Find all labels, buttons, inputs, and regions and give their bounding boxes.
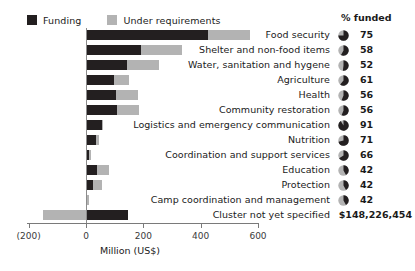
category-label: Health xyxy=(120,89,330,100)
bar-funding xyxy=(86,180,93,190)
percent-funded-pie-icon xyxy=(338,195,350,206)
x-axis-tick-label: 0 xyxy=(63,231,109,241)
percent-funded-pie-icon xyxy=(338,180,350,191)
category-label: Cluster not yet specified xyxy=(120,209,330,220)
percent-funded-pie-icon xyxy=(338,135,350,146)
category-label: Shelter and non-food items xyxy=(120,44,330,55)
category-label: Logistics and emergency communication xyxy=(120,119,330,130)
bar-under-requirements xyxy=(102,120,103,130)
percent-funded-value: 61 xyxy=(360,74,400,85)
bar-funding xyxy=(86,75,114,85)
funding-bar-chart: Funding Under requirements % funded Food… xyxy=(0,0,415,271)
percent-funded-value: 56 xyxy=(360,104,400,115)
percent-funded-value: 56 xyxy=(360,89,400,100)
percent-funded-value: 91 xyxy=(360,119,400,130)
category-label: Education xyxy=(120,164,330,175)
percent-funded-pie-icon xyxy=(338,150,350,161)
bar-under-requirements xyxy=(96,135,99,145)
category-label: Agriculture xyxy=(120,74,330,85)
total-amount-value: $148,226,454 xyxy=(300,209,412,220)
bar-under-requirements xyxy=(97,165,109,175)
category-label: Camp coordination and management xyxy=(120,194,330,205)
chart-row: Nutrition71 xyxy=(0,133,415,148)
percent-funded-pie-icon xyxy=(338,120,350,131)
chart-row: Logistics and emergency communication91 xyxy=(0,118,415,133)
percent-funded-value: 42 xyxy=(360,179,400,190)
percent-funded-header-label: % funded xyxy=(329,12,392,23)
legend-item-funding: Funding xyxy=(27,15,81,26)
percent-funded-value: 75 xyxy=(360,29,400,40)
chart-row: Agriculture61 xyxy=(0,73,415,88)
percent-funded-pie-icon xyxy=(338,165,350,176)
plot-area: Food security75Shelter and non-food item… xyxy=(0,28,415,223)
chart-row: Camp coordination and management42 xyxy=(0,193,415,208)
x-axis-title: Million (US$) xyxy=(50,245,210,256)
percent-funded-pie-icon xyxy=(338,60,350,71)
percent-funded-pie-icon xyxy=(338,105,350,116)
category-label: Nutrition xyxy=(120,134,330,145)
chart-row: Cluster not yet specified$148,226,454 xyxy=(0,208,415,223)
chart-row: Water, sanitation and hygene52 xyxy=(0,58,415,73)
bar-funding xyxy=(86,90,116,100)
chart-row: Community restoration56 xyxy=(0,103,415,118)
x-axis-tick-label: (200) xyxy=(6,231,52,241)
legend-label-funding: Funding xyxy=(43,15,81,26)
category-label: Protection xyxy=(120,179,330,190)
bar-under-requirements xyxy=(93,180,102,190)
legend-label-under-requirements: Under requirements xyxy=(123,15,220,26)
chart-row: Education42 xyxy=(0,163,415,178)
x-axis-tick xyxy=(29,223,30,228)
percent-funded-value: 58 xyxy=(360,44,400,55)
bar-under-requirements xyxy=(87,195,88,205)
bar-under-requirements xyxy=(89,150,90,160)
bar-under-requirements xyxy=(43,210,86,220)
x-axis-tick xyxy=(143,223,144,228)
bar-funding xyxy=(86,165,97,175)
percent-funded-value: 71 xyxy=(360,134,400,145)
bar-funding xyxy=(86,135,96,145)
chart-row: Protection42 xyxy=(0,178,415,193)
bar-funding xyxy=(86,120,102,130)
chart-row: Coordination and support services66 xyxy=(0,148,415,163)
percent-funded-value: 42 xyxy=(360,164,400,175)
zero-baseline xyxy=(86,28,87,223)
percent-funded-pie-icon xyxy=(338,45,350,56)
x-axis-tick-label: 600 xyxy=(235,231,281,241)
x-axis: (200)0200400600 Million (US$) xyxy=(0,223,415,271)
x-axis-tick-label: 200 xyxy=(120,231,166,241)
percent-funded-header: % funded xyxy=(329,12,407,23)
category-label: Coordination and support services xyxy=(120,149,330,160)
legend-swatch-funding-icon xyxy=(27,15,37,25)
x-axis-tick-label: 400 xyxy=(178,231,224,241)
percent-funded-pie-icon xyxy=(338,30,350,41)
x-axis-tick xyxy=(201,223,202,228)
percent-funded-pie-icon xyxy=(338,90,350,101)
chart-row: Shelter and non-food items58 xyxy=(0,43,415,58)
legend-item-under-requirements: Under requirements xyxy=(107,15,220,26)
chart-legend: Funding Under requirements xyxy=(27,13,247,27)
bar-funding xyxy=(86,105,117,115)
percent-funded-value: 42 xyxy=(360,194,400,205)
category-label: Water, sanitation and hygene xyxy=(120,59,330,70)
x-axis-tick xyxy=(86,223,87,228)
category-label: Food security xyxy=(120,29,330,40)
chart-row: Food security75 xyxy=(0,28,415,43)
x-axis-tick xyxy=(258,223,259,228)
percent-funded-pie-icon xyxy=(338,75,350,86)
chart-row: Health56 xyxy=(0,88,415,103)
percent-funded-value: 66 xyxy=(360,149,400,160)
legend-swatch-under-requirements-icon xyxy=(107,15,117,25)
percent-funded-value: 52 xyxy=(360,59,400,70)
category-label: Community restoration xyxy=(120,104,330,115)
